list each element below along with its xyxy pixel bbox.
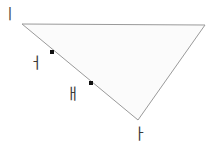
label-bottom-vertex: ㅏ [133, 127, 147, 142]
geometry-diagram [0, 0, 213, 156]
point-upper [50, 50, 54, 54]
label-upper-side: ㅓ [29, 56, 43, 71]
point-lower [89, 81, 93, 85]
label-lower-side: ㅐ [66, 87, 80, 102]
label-top-left: ㅣ [3, 7, 17, 22]
figure-canvas: ㅣ ㅓ ㅐ ㅏ [0, 0, 213, 156]
triangle-shape [22, 24, 205, 120]
